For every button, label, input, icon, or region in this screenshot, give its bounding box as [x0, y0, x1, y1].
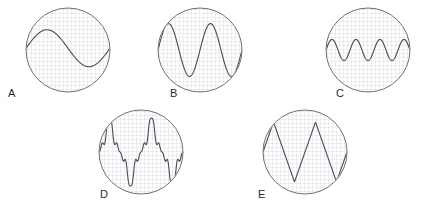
scope-label-b: B	[170, 88, 178, 99]
scope-graticule	[23, 5, 113, 95]
scope-panel-e	[260, 107, 350, 197]
scope-panel-d	[96, 107, 186, 197]
scope-label-c: C	[336, 88, 344, 99]
scope-panel-c	[323, 5, 413, 95]
oscilloscope-figure: ABCDE	[0, 0, 434, 204]
scope-label-a: A	[8, 88, 16, 99]
scope-panel-a	[23, 5, 113, 95]
scope-graticule	[323, 5, 413, 95]
scope-label-e: E	[258, 189, 266, 200]
scope-label-d: D	[100, 189, 108, 200]
scope-panel-b	[155, 5, 245, 95]
